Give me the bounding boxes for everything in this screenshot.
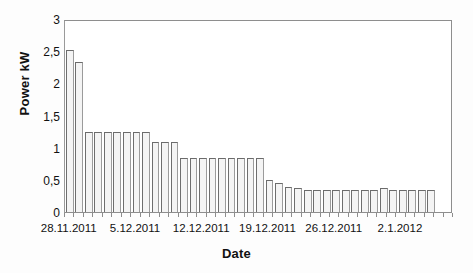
bar: [256, 158, 264, 212]
x-axis-tick-mark: [405, 213, 406, 217]
bar: [399, 190, 407, 212]
x-axis-tick-mark: [282, 213, 283, 217]
x-axis-tick-mark: [452, 213, 453, 217]
bar: [228, 158, 236, 212]
bar: [113, 132, 121, 212]
x-axis-tick-mark: [301, 213, 302, 217]
x-axis-tick-mark: [149, 213, 150, 217]
x-axis-tick-mark: [348, 213, 349, 217]
bar: [237, 158, 245, 212]
bar: [209, 158, 217, 212]
x-axis-tick-mark: [206, 213, 207, 217]
bar: [323, 190, 331, 212]
bar: [66, 50, 74, 212]
x-axis-tick-mark: [395, 213, 396, 217]
x-axis-tick-mark: [329, 213, 330, 217]
x-axis-tick-mark: [73, 213, 74, 217]
bar: [361, 190, 369, 212]
x-axis-tick-mark: [130, 213, 131, 217]
x-axis-tick-mark: [159, 213, 160, 217]
x-axis-tick-mark: [92, 213, 93, 217]
x-axis-tick-mark: [140, 213, 141, 217]
y-axis-tick-label: 1: [26, 143, 60, 155]
x-axis-tick-mark: [111, 213, 112, 217]
y-axis-tick-label: 0: [26, 207, 60, 219]
x-axis-tick-mark: [102, 213, 103, 217]
x-axis-tick-mark: [320, 213, 321, 217]
x-axis-tick-mark: [291, 213, 292, 217]
x-axis-tick-mark: [225, 213, 226, 217]
bar: [332, 190, 340, 212]
bar: [104, 132, 112, 212]
chart-figure: Power kW 32,521,510,50 28.11.20115.12.20…: [0, 0, 473, 273]
x-axis-tick-mark: [83, 213, 84, 217]
bar: [75, 62, 83, 212]
x-axis-tick-mark: [215, 213, 216, 217]
x-axis-tick-mark: [443, 213, 444, 217]
x-axis-tick-label: 2.1.2012: [355, 222, 445, 234]
bar: [142, 132, 150, 212]
x-axis-tick-marks: [64, 213, 452, 218]
x-axis-tick-mark: [376, 213, 377, 217]
x-axis-tick-mark: [414, 213, 415, 217]
bar: [123, 132, 131, 212]
x-axis-tick-mark: [121, 213, 122, 217]
bar-series: [65, 21, 451, 212]
bar: [152, 142, 160, 212]
x-axis-tick-mark: [64, 213, 65, 217]
bar: [418, 190, 426, 212]
bar: [351, 190, 359, 212]
bar: [313, 190, 321, 212]
x-axis-tick-mark: [187, 213, 188, 217]
bar: [190, 158, 198, 212]
bar: [389, 190, 397, 212]
bar: [199, 158, 207, 212]
bar: [275, 183, 283, 212]
bar: [408, 190, 416, 212]
x-axis-tick-mark: [263, 213, 264, 217]
x-axis-tick-mark: [272, 213, 273, 217]
bar: [294, 188, 302, 212]
x-axis-tick-mark: [253, 213, 254, 217]
bar: [380, 188, 388, 212]
bar: [304, 190, 312, 212]
x-axis-title: Date: [0, 246, 473, 261]
x-axis-tick-mark: [234, 213, 235, 217]
x-axis-tick-mark: [178, 213, 179, 217]
bar: [342, 190, 350, 212]
bar: [94, 132, 102, 212]
x-axis-tick-mark: [310, 213, 311, 217]
y-axis-tick-label: 3: [26, 14, 60, 26]
y-axis-tick-label: 2: [26, 78, 60, 90]
x-axis-tick-labels: 28.11.20115.12.201112.12.201119.12.20112…: [0, 222, 473, 238]
bar: [161, 142, 169, 212]
x-axis-tick-mark: [367, 213, 368, 217]
x-axis-tick-mark: [196, 213, 197, 217]
bar: [171, 142, 179, 212]
plot-area: [64, 20, 452, 213]
x-axis-tick-mark: [386, 213, 387, 217]
x-axis-tick-mark: [357, 213, 358, 217]
bar: [247, 158, 255, 212]
x-axis-tick-mark: [168, 213, 169, 217]
x-axis-tick-mark: [433, 213, 434, 217]
bar: [133, 132, 141, 212]
bar: [285, 187, 293, 212]
y-axis-tick-label: 2,5: [26, 46, 60, 58]
bar: [370, 190, 378, 212]
bar: [180, 158, 188, 212]
x-axis-tick-mark: [338, 213, 339, 217]
bar: [218, 158, 226, 212]
bar: [427, 190, 435, 212]
y-axis-tick-label: 0,5: [26, 175, 60, 187]
y-axis-tick-label: 1,5: [26, 111, 60, 123]
x-axis-tick-mark: [244, 213, 245, 217]
bar: [266, 180, 274, 212]
x-axis-tick-mark: [424, 213, 425, 217]
bar: [85, 132, 93, 212]
